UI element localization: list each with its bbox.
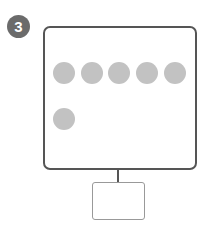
child-box	[92, 182, 145, 220]
step-number-badge: 3	[7, 15, 30, 38]
dot-row1-2	[81, 62, 103, 84]
dot-row1-5	[164, 62, 186, 84]
dot-row2-1	[53, 108, 75, 130]
dot-row1-1	[53, 62, 75, 84]
dot-row1-4	[136, 62, 158, 84]
connector-line	[117, 170, 119, 182]
dot-row1-3	[108, 62, 130, 84]
container-box	[43, 26, 197, 170]
